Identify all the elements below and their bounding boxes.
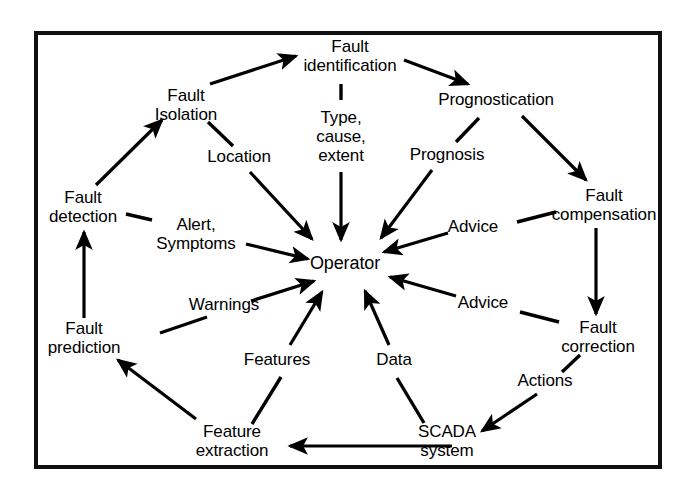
- diagram-canvas: OperatorFault identificationFault Isolat…: [0, 0, 686, 499]
- node-fault-correction: Fault correction: [561, 318, 635, 356]
- node-fault-compensation: Fault compensation: [552, 186, 657, 224]
- node-fault-isolation: Fault Isolation: [155, 86, 217, 124]
- diagram-border-frame: [34, 31, 662, 469]
- node-fault-identification: Fault identification: [303, 37, 396, 75]
- edge-label-prognosis: Prognosis: [410, 145, 485, 164]
- node-fault-detection: Fault detection: [49, 188, 117, 226]
- node-prognostication: Prognostication: [438, 90, 554, 109]
- edge-label-data: Data: [376, 350, 412, 369]
- edge-label-features: Features: [244, 350, 310, 369]
- edge-label-actions: Actions: [517, 371, 572, 390]
- node-fault-prediction: Fault prediction: [48, 319, 121, 357]
- edge-label-type-cause-extent: Type, cause, extent: [316, 108, 366, 165]
- edge-label-warnings: Warnings: [189, 295, 259, 314]
- node-feature-extraction: Feature extraction: [196, 422, 269, 460]
- edge-label-advice-lower: Advice: [458, 293, 508, 312]
- edge-label-advice-upper: Advice: [448, 217, 498, 236]
- node-scada-system: SCADA system: [418, 422, 476, 460]
- edge-label-alert-symptoms: Alert, Symptoms: [156, 215, 236, 253]
- node-operator-hub: Operator: [310, 253, 380, 273]
- edge-label-location: Location: [207, 147, 270, 166]
